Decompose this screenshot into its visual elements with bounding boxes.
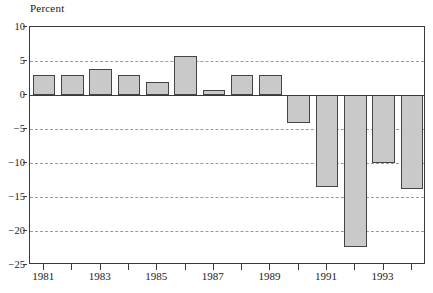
x-tick-label: 1993	[372, 270, 394, 282]
y-tick-mark	[23, 230, 27, 231]
bar	[118, 75, 141, 95]
x-tick-label: 1983	[89, 270, 111, 282]
y-tick-mark	[23, 26, 27, 27]
bar	[231, 75, 254, 95]
bar	[401, 95, 424, 189]
x-tick-label: 1989	[258, 270, 280, 282]
y-axis-title: Percent	[30, 2, 64, 14]
plot-area	[29, 26, 425, 264]
bar	[372, 95, 395, 163]
gridline	[30, 61, 424, 62]
x-tick-label: 1981	[32, 270, 54, 282]
x-tick-label: 1985	[145, 270, 167, 282]
bar-chart: Percent 1050−5−10−15−20−25 1981198319851…	[0, 0, 433, 293]
bar	[174, 56, 197, 95]
bar	[287, 95, 310, 123]
bar	[33, 75, 56, 95]
x-tick-label: 1987	[202, 270, 224, 282]
x-tick-label: 1991	[315, 270, 337, 282]
bar	[316, 95, 339, 187]
y-tick-mark	[23, 94, 27, 95]
zero-line	[30, 95, 424, 96]
y-tick-mark	[23, 60, 27, 61]
bar	[146, 82, 169, 95]
bar	[344, 95, 367, 247]
x-axis-tick-labels: 1981198319851987198919911993	[29, 270, 425, 290]
y-tick-mark	[23, 162, 27, 163]
plot-inner	[30, 27, 424, 263]
y-axis-tick-labels: 1050−5−10−15−20−25	[0, 26, 27, 264]
y-tick-mark	[23, 196, 27, 197]
y-tick-mark	[23, 128, 27, 129]
bar	[89, 69, 112, 95]
bar	[259, 75, 282, 95]
y-tick-mark	[23, 264, 27, 265]
bar	[61, 75, 84, 95]
